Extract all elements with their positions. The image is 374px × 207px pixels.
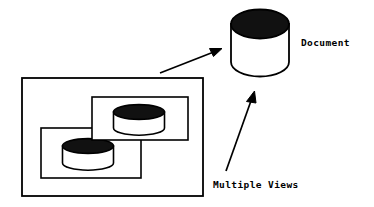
cylinder-top-upper	[114, 105, 165, 120]
cylinder-top-document	[231, 10, 289, 39]
diagram-canvas: Document Multiple Views	[0, 0, 374, 207]
cylinder-top-lower	[63, 139, 114, 154]
view-database-cylinder-lower	[63, 139, 114, 171]
document-label: Document	[301, 37, 350, 48]
multiple-views-document-diagram: Document Multiple Views	[0, 0, 374, 207]
multiple-views-label: Multiple Views	[213, 179, 299, 190]
view-database-cylinder-upper	[114, 105, 165, 136]
document-database-cylinder	[231, 10, 289, 77]
